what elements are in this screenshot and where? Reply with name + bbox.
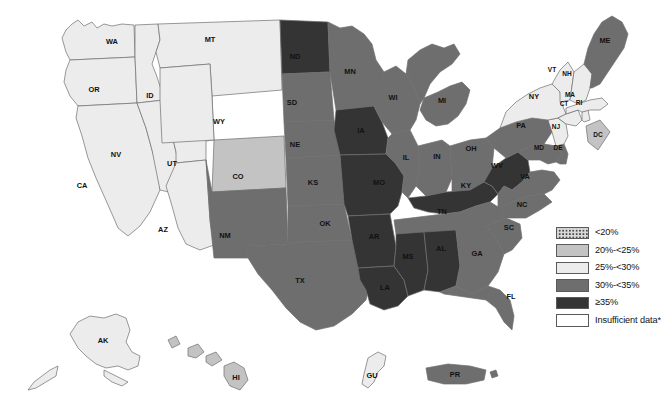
legend-label-ge35: ≥35% (595, 298, 618, 307)
state-label-UT: UT (167, 159, 177, 168)
state-label-OR: OR (88, 85, 100, 94)
legend-label-25-30: 25%-<30% (595, 263, 639, 272)
state-label-RI: RI (576, 99, 583, 106)
state-IN[interactable] (416, 140, 452, 196)
state-label-AL: AL (436, 244, 446, 253)
legend-item-25-30[interactable]: 25%-<30% (556, 259, 656, 277)
state-label-WA: WA (106, 37, 119, 46)
legend-item-ge35[interactable]: ≥35% (556, 294, 656, 312)
state-label-VT: VT (548, 66, 556, 73)
state-label-AK: AK (98, 336, 109, 345)
state-label-ME: ME (599, 36, 610, 45)
state-label-AR: AR (369, 232, 380, 241)
state-OR[interactable] (64, 57, 137, 106)
legend-swatch-ge35 (556, 297, 589, 310)
state-label-VA: VA (520, 172, 530, 181)
legend-label-30-35: 30%-<35% (595, 281, 639, 290)
state-label-WI: WI (388, 93, 397, 102)
state-label-ID: ID (146, 91, 154, 100)
state-label-CA: CA (77, 181, 88, 190)
legend-swatch-lt20 (556, 227, 589, 240)
state-label-PR: PR (450, 370, 461, 379)
state-label-CT: CT (560, 100, 569, 107)
state-label-HI: HI (232, 373, 239, 382)
legend-item-20-25[interactable]: 20%-<25% (556, 242, 656, 260)
state-label-WV: WV (491, 161, 503, 170)
legend-swatch-30-35 (556, 279, 589, 292)
state-TX[interactable] (246, 240, 370, 330)
state-label-MI: MI (438, 96, 446, 105)
state-WA[interactable] (62, 20, 135, 60)
legend-item-30-35[interactable]: 30%-<35% (556, 277, 656, 295)
state-label-FL: FL (506, 292, 516, 301)
state-label-DC: DC (593, 131, 603, 138)
state-label-SC: SC (504, 223, 515, 232)
state-label-KS: KS (308, 178, 318, 187)
state-label-NE: NE (290, 140, 300, 149)
state-MN[interactable] (328, 22, 384, 110)
state-label-NY: NY (529, 92, 539, 101)
state-label-NJ: NJ (552, 123, 561, 130)
state-ND[interactable] (280, 20, 330, 74)
state-label-WY: WY (213, 117, 225, 126)
state-label-AZ: AZ (158, 225, 168, 234)
legend-label-lt20: <20% (595, 228, 618, 237)
state-label-NM: NM (219, 231, 231, 240)
state-label-MS: MS (402, 252, 413, 261)
state-label-PA: PA (516, 121, 526, 130)
state-label-TN: TN (437, 207, 447, 216)
state-label-IN: IN (433, 152, 440, 161)
state-CO[interactable] (212, 136, 286, 192)
state-label-CO: CO (232, 172, 243, 181)
state-MO[interactable] (340, 154, 404, 216)
state-AK[interactable] (28, 314, 140, 390)
state-label-IL: IL (403, 153, 410, 162)
state-label-DE: DE (553, 144, 563, 151)
state-WY[interactable] (160, 64, 214, 143)
legend-label-insufficient: Insufficient data* (595, 316, 661, 325)
legend-swatch-insufficient (556, 314, 589, 327)
state-label-NC: NC (517, 200, 528, 209)
state-label-LA: LA (380, 283, 391, 292)
state-AL[interactable] (424, 230, 460, 292)
state-label-IA: IA (357, 126, 365, 135)
state-label-KY: KY (461, 181, 471, 190)
state-label-OK: OK (319, 219, 331, 228)
state-label-ND: ND (290, 52, 301, 61)
legend-swatch-25-30 (556, 262, 589, 275)
state-label-NV: NV (111, 150, 121, 159)
legend-item-lt20[interactable]: <20% (556, 224, 656, 242)
state-label-GU: GU (366, 371, 377, 380)
state-label-MN: MN (344, 67, 356, 76)
state-label-MD: MD (534, 144, 544, 151)
state-label-NH: NH (562, 70, 572, 77)
legend-item-insufficient[interactable]: Insufficient data* (556, 312, 656, 330)
legend-label-20-25: 20%-<25% (595, 246, 639, 255)
legend-swatch-20-25 (556, 244, 589, 257)
state-PR[interactable] (426, 364, 498, 384)
state-label-SD: SD (287, 98, 298, 107)
state-label-MO: MO (373, 178, 385, 187)
map-legend: <20% 20%-<25% 25%-<30% 30%-<35% ≥35% Ins… (556, 224, 656, 329)
state-label-TX: TX (295, 276, 305, 285)
state-label-MT: MT (205, 35, 216, 44)
state-label-OH: OH (465, 144, 476, 153)
state-FL[interactable] (440, 286, 514, 330)
state-label-MA: MA (565, 91, 575, 98)
state-label-GA: GA (471, 249, 483, 258)
